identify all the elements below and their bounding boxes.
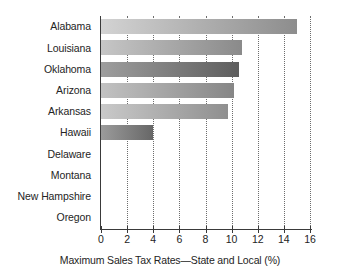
bar — [101, 62, 239, 77]
bar-row — [101, 143, 310, 164]
bar-row — [101, 101, 310, 122]
x-axis-tick-label: 6 — [176, 234, 182, 245]
bar-row — [101, 186, 310, 207]
category-label: Arkansas — [0, 101, 96, 122]
x-axis-tick-label: 10 — [226, 234, 238, 245]
bar-row — [101, 164, 310, 185]
bar — [101, 40, 242, 55]
x-axis-tick-label: 0 — [98, 234, 104, 245]
bar-chart: AlabamaLouisianaOklahomaArizonaArkansasH… — [0, 0, 340, 277]
x-axis-tick-label: 2 — [124, 234, 130, 245]
x-axis-tick-label: 16 — [304, 234, 316, 245]
category-label: Oregon — [0, 207, 96, 228]
bar — [101, 104, 228, 119]
category-label: Delaware — [0, 143, 96, 164]
bar-row — [101, 37, 310, 58]
bar-row — [101, 16, 310, 37]
category-label: New Hampshire — [0, 186, 96, 207]
category-label: Oklahoma — [0, 58, 96, 79]
bar — [101, 19, 297, 34]
bar-row — [101, 207, 310, 228]
bar-row — [101, 122, 310, 143]
x-axis-tick-label: 8 — [203, 234, 209, 245]
category-axis-labels: AlabamaLouisianaOklahomaArizonaArkansasH… — [0, 16, 96, 228]
bar-series — [101, 16, 310, 228]
gridline — [310, 16, 311, 228]
x-axis-title: Maximum Sales Tax Rates—State and Local … — [0, 255, 340, 266]
x-axis-tick-label: 12 — [252, 234, 264, 245]
x-axis-tick-label: 14 — [278, 234, 290, 245]
x-axis-tick-label: 4 — [150, 234, 156, 245]
bar-row — [101, 80, 310, 101]
bar — [101, 125, 153, 140]
category-label: Louisiana — [0, 37, 96, 58]
category-label: Arizona — [0, 80, 96, 101]
x-axis-tick — [310, 226, 311, 233]
bar — [101, 83, 234, 98]
category-label: Hawaii — [0, 122, 96, 143]
category-label: Montana — [0, 164, 96, 185]
bar-row — [101, 58, 310, 79]
category-label: Alabama — [0, 16, 96, 37]
